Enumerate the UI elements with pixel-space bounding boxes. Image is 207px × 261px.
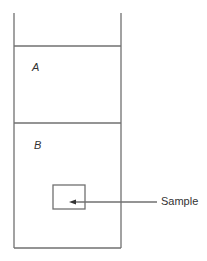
zone-a-label: A — [32, 62, 39, 73]
zone-b-label: B — [34, 140, 41, 151]
arrowhead-icon — [69, 200, 76, 205]
sample-callout-label: Sample — [161, 196, 198, 207]
sample-box — [53, 185, 85, 209]
diagram-canvas — [0, 0, 207, 261]
